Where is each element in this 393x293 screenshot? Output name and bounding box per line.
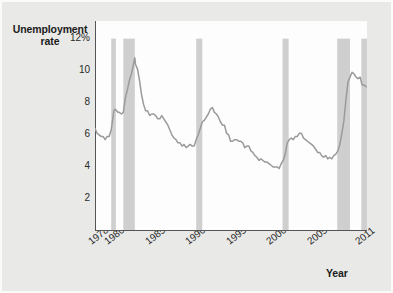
recession-band (337, 39, 350, 231)
recession-band (361, 39, 367, 231)
recession-band (196, 39, 202, 231)
chart-figure: Unemployment rate Year 24681012% 1978198… (0, 0, 393, 293)
recession-shading-group (111, 39, 367, 231)
axis-lines-group (95, 21, 367, 231)
plot-area (95, 21, 367, 231)
recession-band (283, 39, 289, 231)
unemployment-rate-line (95, 58, 366, 169)
recession-band (111, 39, 116, 231)
unemployment-rate-line-chart (95, 21, 367, 231)
